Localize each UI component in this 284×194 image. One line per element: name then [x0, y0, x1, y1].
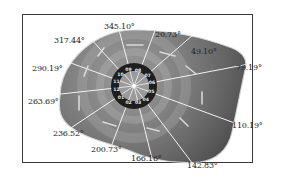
segment-id-03: 03	[135, 100, 141, 105]
angle-label-290: 290.19°	[32, 65, 63, 73]
angle-label-79: 79.19°	[236, 64, 262, 72]
segment-id-04: 04	[143, 97, 149, 102]
segment-id-12: 12	[113, 87, 119, 92]
angle-label-200: 200.73°	[91, 146, 122, 154]
segment-id-01: 01	[118, 95, 124, 100]
segment-id-07: 07	[144, 73, 150, 78]
angle-label-49: 49.10°	[191, 48, 217, 56]
angle-label-345: 345.10°	[104, 23, 135, 31]
angle-label-236: 236.52°	[53, 130, 84, 138]
segment-id-02: 02	[125, 100, 131, 105]
angle-label-166: 166.16°	[131, 155, 162, 163]
segment-id-11: 11	[113, 79, 119, 84]
angle-label-142: 142.83°	[187, 162, 218, 170]
segment-id-08: 08	[135, 68, 141, 73]
segment-id-05: 05	[148, 89, 154, 94]
segment-id-10: 10	[117, 72, 123, 77]
angle-label-317: 317.44°	[54, 37, 85, 45]
angle-label-263: 263.69°	[28, 98, 59, 106]
angle-label-110: 110.19°	[232, 122, 263, 130]
segment-id-06: 06	[149, 80, 155, 85]
segment-id-09: 09	[125, 67, 131, 72]
angle-label-20: 20.73°	[155, 31, 181, 39]
